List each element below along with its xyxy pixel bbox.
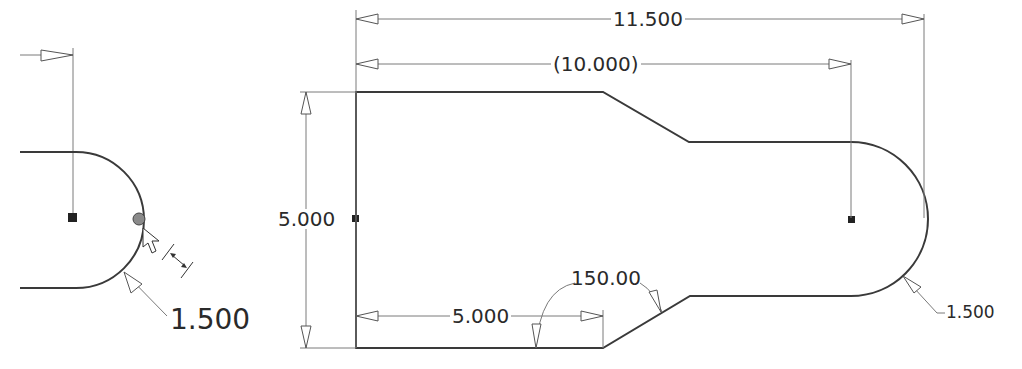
arrowhead-bottom bbox=[301, 326, 311, 348]
bottom-length-label[interactable]: 5.000 bbox=[450, 306, 511, 326]
detail-center-point[interactable] bbox=[68, 213, 77, 222]
arrowhead-top bbox=[301, 92, 311, 114]
angle-arrowhead-right bbox=[649, 290, 661, 312]
arrowhead-left bbox=[356, 311, 378, 321]
selected-point-icon[interactable] bbox=[133, 213, 145, 225]
radius-arrowhead bbox=[903, 276, 921, 293]
angle-arrowhead-left bbox=[532, 324, 541, 348]
center-distance-label[interactable]: (10.000) bbox=[551, 54, 641, 74]
detail-slot-end[interactable] bbox=[20, 152, 144, 288]
detail-view bbox=[20, 48, 193, 316]
detail-radius-label[interactable]: 1.500 bbox=[170, 306, 250, 334]
arrowhead-right bbox=[902, 14, 924, 24]
arrowhead-right bbox=[829, 59, 851, 69]
chamfer-angle-label[interactable]: 150.00 bbox=[569, 268, 643, 288]
arrowhead-right bbox=[581, 311, 603, 321]
cursor-pointer-icon bbox=[143, 228, 193, 278]
end-radius-label[interactable]: 1.500 bbox=[946, 304, 995, 321]
height-label[interactable]: 5.000 bbox=[277, 209, 336, 229]
overall-length-label[interactable]: 11.500 bbox=[611, 9, 685, 29]
detail-radius-arrowhead bbox=[124, 272, 142, 293]
arrowhead-left bbox=[356, 59, 378, 69]
arrowhead-left bbox=[356, 14, 378, 24]
part-profile[interactable] bbox=[356, 92, 928, 348]
detail-arrowhead bbox=[41, 50, 73, 61]
